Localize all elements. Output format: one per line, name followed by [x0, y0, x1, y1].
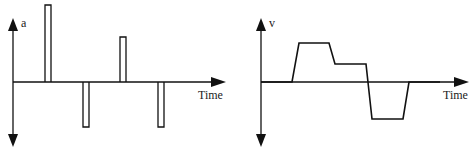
acceleration-axis-label: a [21, 16, 27, 30]
time-axis-label-left: Time [198, 88, 223, 102]
pulse-1 [45, 5, 51, 82]
y-axis-down-arrow-icon [8, 134, 18, 147]
x-axis-arrow-icon [211, 77, 226, 87]
velocity-curve [261, 43, 440, 119]
acceleration-graph [8, 5, 226, 147]
y-axis-down-arrow-icon [256, 134, 266, 147]
pulse-3 [120, 37, 126, 82]
y-axis-up-arrow-icon [8, 18, 18, 31]
time-axis-label-right: Time [443, 88, 468, 102]
motion-graphs: a Time v Time [0, 0, 472, 155]
pulse-2 [83, 82, 89, 127]
x-axis-arrow-icon [454, 77, 469, 87]
velocity-graph [256, 18, 469, 147]
pulse-4 [158, 82, 164, 127]
velocity-axis-label: v [269, 16, 275, 30]
y-axis-up-arrow-icon [256, 18, 266, 31]
